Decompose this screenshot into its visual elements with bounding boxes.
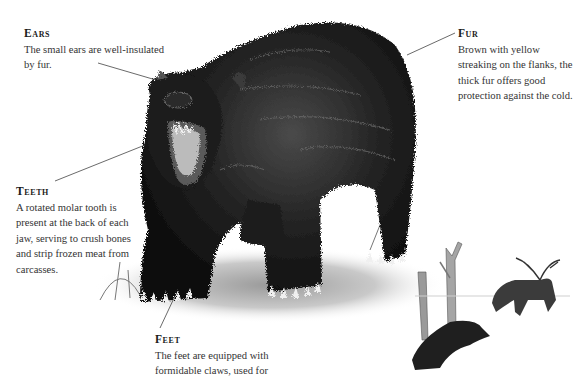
leader-line-fur [407, 33, 455, 55]
background-scene [412, 242, 570, 370]
callout-fur-text: Brown with yellow streaking on the flank… [458, 42, 576, 104]
callout-feet-text: The feet are equipped with formidable cl… [155, 348, 295, 379]
callout-feet: Feet The feet are equipped with formidab… [155, 332, 295, 379]
callout-teeth-heading: Teeth [16, 184, 146, 200]
callout-ears-heading: Ears [24, 26, 164, 42]
callout-ears: Ears The small ears are well-insulated b… [24, 26, 164, 73]
callout-fur: Fur Brown with yellow streaking on the f… [458, 26, 576, 104]
callout-feet-heading: Feet [155, 332, 295, 348]
leader-line-teeth [55, 145, 145, 181]
callout-ears-text: The small ears are well-insulated by fur… [24, 42, 164, 73]
reindeer [492, 258, 560, 316]
callout-teeth: Teeth A rotated molar tooth is present a… [16, 184, 146, 277]
callout-fur-heading: Fur [458, 26, 576, 42]
callout-teeth-text: A rotated molar tooth is present at the … [16, 200, 146, 278]
